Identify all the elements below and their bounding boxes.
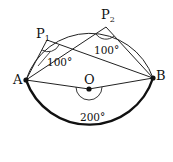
chord-a-p1	[26, 40, 47, 80]
point-b	[150, 75, 155, 80]
point-a	[23, 77, 28, 82]
angle-label-p1: 100°	[47, 56, 72, 68]
point-o	[86, 86, 91, 91]
label-a: A	[12, 72, 23, 87]
label-o: O	[84, 72, 95, 87]
label-p1: P1	[36, 26, 50, 43]
angle-label-p2: 100°	[94, 44, 119, 56]
label-b: B	[156, 68, 166, 83]
label-p2: P2	[101, 7, 115, 24]
radius-ob	[89, 78, 153, 89]
angle-label-center: 200°	[80, 111, 105, 123]
circle-diagram: A B O P1 P2 100° 100° 200°	[0, 0, 173, 162]
radius-oa	[26, 80, 89, 89]
